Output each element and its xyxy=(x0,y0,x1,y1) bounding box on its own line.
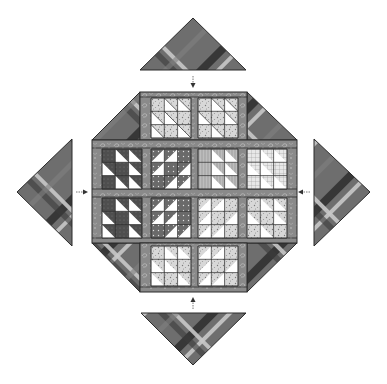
block-row3-3 xyxy=(198,198,238,238)
block-row2-3 xyxy=(198,149,238,189)
block-row3-1 xyxy=(102,198,142,238)
setting-triangle-bottom xyxy=(141,313,246,365)
block-row3-4 xyxy=(247,198,287,238)
corner-triangle-bottom-left xyxy=(92,243,140,292)
corner-triangle-bottom-right xyxy=(247,243,297,292)
setting-triangle-top xyxy=(140,18,246,70)
arrow-left-icon xyxy=(298,190,310,195)
setting-triangle-right xyxy=(314,139,370,246)
block-row2-2 xyxy=(151,149,191,189)
block-row1-1 xyxy=(151,98,191,138)
quilt-assembly-diagram xyxy=(0,0,387,384)
block-row2-4 xyxy=(247,149,287,189)
block-row1-2 xyxy=(198,98,238,138)
block-row2-1 xyxy=(102,149,142,189)
block-row3-2 xyxy=(151,198,191,238)
setting-triangle-left xyxy=(17,139,72,246)
corner-triangle-top-right xyxy=(247,92,297,140)
arrow-right-icon xyxy=(76,190,88,195)
corner-triangle-top-left xyxy=(92,92,140,140)
quilt-center xyxy=(92,92,297,292)
block-row4-2 xyxy=(198,246,238,286)
block-row4-1 xyxy=(151,246,191,286)
arrow-up-icon xyxy=(191,297,196,309)
arrow-down-icon xyxy=(191,76,196,88)
